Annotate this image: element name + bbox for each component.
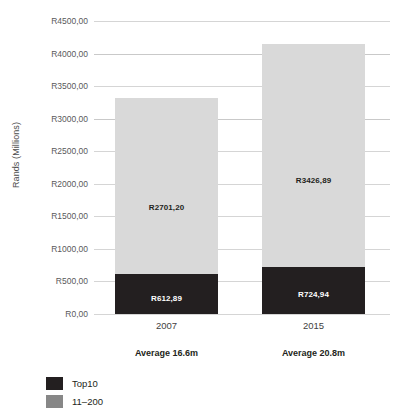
bar-segment-top10-2007[interactable]: R612,89	[115, 274, 218, 314]
gridline	[94, 314, 390, 315]
bar-value-label-11-200-2007: R2701,20	[149, 203, 185, 212]
bar-segment-11-200-2015[interactable]: R3426,89	[262, 44, 365, 267]
stacked-bar-chart: Rands (Millions) R4500,00R4000,00R3500,0…	[0, 0, 398, 420]
chart-legend: Top10 11–200	[46, 374, 103, 410]
legend-swatch-top10	[46, 377, 63, 390]
y-axis-tick-label: R4000,00	[38, 49, 88, 59]
y-axis-tick-label: R2000,00	[38, 179, 88, 189]
plot-area: R4500,00R4000,00R3500,00R3000,00R2500,00…	[94, 21, 390, 314]
legend-item-top10[interactable]: Top10	[46, 374, 103, 392]
bar-segment-top10-2015[interactable]: R724,94	[262, 267, 365, 314]
legend-label-top10: Top10	[72, 378, 98, 389]
y-axis-tick-label: R0,00	[38, 309, 88, 319]
bar-2015[interactable]: R3426,89R724,94	[262, 21, 365, 314]
y-axis-tick-label: R1000,00	[38, 244, 88, 254]
average-annotation-2015: Average 20.8m	[254, 348, 374, 358]
y-axis-tick-label: R500,00	[38, 276, 88, 286]
bar-segment-11-200-2007[interactable]: R2701,20	[115, 98, 218, 274]
average-annotation-2007: Average 16.6m	[107, 348, 227, 358]
y-axis-tick-label: R1500,00	[38, 211, 88, 221]
legend-swatch-11-200	[46, 395, 63, 408]
x-axis-label-2015: 2015	[254, 320, 374, 331]
y-axis-tick-label: R3000,00	[38, 114, 88, 124]
y-axis-tick-label: R4500,00	[38, 16, 88, 26]
bar-value-label-top10-2015: R724,94	[298, 290, 329, 299]
bar-2007[interactable]: R2701,20R612,89	[115, 21, 218, 314]
x-axis-label-2007: 2007	[107, 320, 227, 331]
legend-item-11-200[interactable]: 11–200	[46, 392, 103, 410]
bar-value-label-11-200-2015: R3426,89	[296, 176, 332, 185]
y-axis-tick-label: R3500,00	[38, 81, 88, 91]
y-axis-tick-label: R2500,00	[38, 146, 88, 156]
legend-label-11-200: 11–200	[72, 396, 103, 407]
y-axis-title: Rands (Millions)	[11, 95, 21, 215]
bar-value-label-top10-2007: R612,89	[151, 294, 182, 303]
